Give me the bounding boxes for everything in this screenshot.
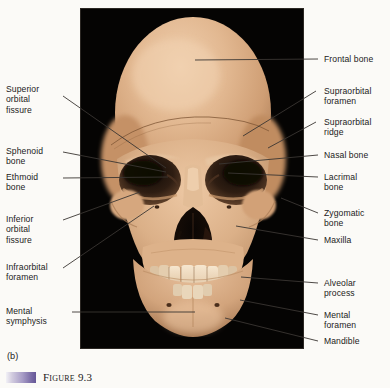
label-mandible: Mandible <box>324 336 360 346</box>
label-alveolar-process: Alveolar process <box>324 278 356 299</box>
caption-accent-bar <box>6 372 36 383</box>
label-mental-symphysis: Mental symphysis <box>6 306 47 327</box>
skull-photograph <box>81 9 303 348</box>
label-zygomatic-bone: Zygomatic bone <box>324 208 364 229</box>
figure-container: Superior orbital fissure Sphenoid bone E… <box>0 0 390 388</box>
skull-illustration <box>81 9 303 348</box>
label-ethmoid-bone: Ethmoid bone <box>6 172 38 193</box>
label-nasal-bone: Nasal bone <box>324 150 368 160</box>
caption-number: 9.3 <box>78 371 92 383</box>
label-sphenoid-bone: Sphenoid bone <box>6 146 43 167</box>
label-frontal-bone: Frontal bone <box>324 54 373 64</box>
figure-caption: Figure 9.3 <box>6 371 92 383</box>
label-lacrimal-bone: Lacrimal bone <box>324 172 357 193</box>
label-superior-orbital-fissure: Superior orbital fissure <box>6 84 39 115</box>
label-maxilla: Maxilla <box>324 235 351 245</box>
label-infraorbital-foramen: Infraorbital foramen <box>6 262 48 283</box>
caption-label: Figure <box>43 371 75 383</box>
label-mental-foramen: Mental foramen <box>324 310 356 331</box>
caption-text: Figure 9.3 <box>43 371 92 383</box>
label-supraorbital-foramen: Supraorbital foramen <box>324 86 371 107</box>
panel-letter-b: (b) <box>7 351 18 361</box>
label-supraorbital-ridge: Supraorbital ridge <box>324 117 371 138</box>
label-inferior-orbital-fissure: Inferior orbital fissure <box>6 214 33 245</box>
